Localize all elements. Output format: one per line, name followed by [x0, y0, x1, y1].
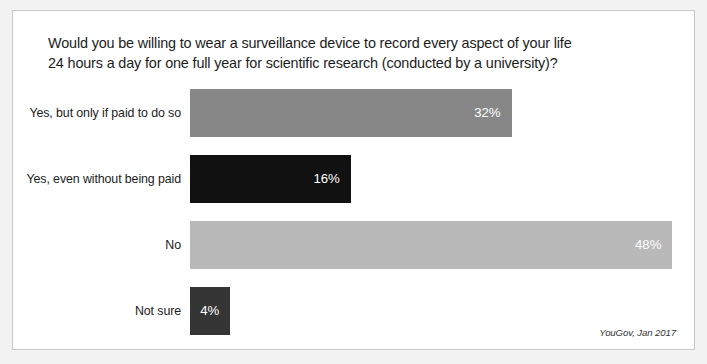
bar-row: Not sure4%: [13, 287, 694, 335]
bar-category-label: Not sure: [12, 287, 190, 335]
bar-fill: 4%: [190, 287, 230, 335]
bar-chart-plot-area: Yes, but only if paid to do so32%Yes, ev…: [13, 11, 694, 349]
bar-value-label: 16%: [313, 155, 339, 203]
bar-value-label: 48%: [635, 221, 661, 269]
bar-track: Yes, but only if paid to do so32%: [190, 89, 512, 137]
bar-category-label: No: [12, 221, 190, 269]
bar-track: Yes, even without being paid16%: [190, 155, 351, 203]
bar-fill: 16%: [190, 155, 351, 203]
bar-value-label: 32%: [474, 89, 500, 137]
bar-row: No48%: [13, 221, 694, 269]
bar-row: Yes, but only if paid to do so32%: [13, 89, 694, 137]
bar-row: Yes, even without being paid16%: [13, 155, 694, 203]
bar-fill: 32%: [190, 89, 512, 137]
source-attribution: YouGov, Jan 2017: [599, 327, 676, 338]
bar-value-label: 4%: [200, 287, 219, 335]
bar-track: No48%: [190, 221, 672, 269]
bar-category-label: Yes, even without being paid: [12, 155, 190, 203]
bar-category-label: Yes, but only if paid to do so: [12, 89, 190, 137]
bar-fill: 48%: [190, 221, 672, 269]
chart-frame: Would you be willing to wear a surveilla…: [12, 10, 695, 350]
bar-track: Not sure4%: [190, 287, 230, 335]
